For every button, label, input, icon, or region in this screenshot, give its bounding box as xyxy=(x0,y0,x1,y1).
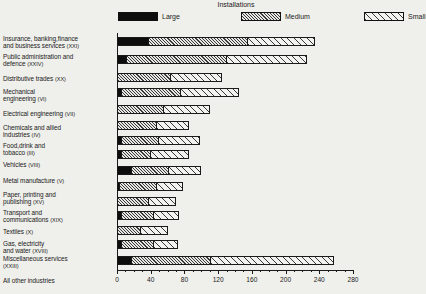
bar-segment-medium xyxy=(127,55,226,64)
bar-segment-large xyxy=(117,256,132,265)
chart-title: Installations xyxy=(118,1,354,8)
bar-segment-small xyxy=(154,211,179,220)
bar-segment-medium xyxy=(117,121,157,130)
x-tick-label: 280 xyxy=(343,276,363,283)
x-tick-minor xyxy=(243,270,244,272)
bar-segment-small xyxy=(211,256,334,265)
x-tick-minor xyxy=(201,270,202,272)
x-tick-minor xyxy=(294,270,295,272)
legend-label: Large xyxy=(162,13,180,20)
x-tick-label: 120 xyxy=(208,276,228,283)
x-tick-minor xyxy=(277,270,278,272)
category-label: Miscellaneous services(XXIII) xyxy=(3,255,115,271)
x-tick xyxy=(184,270,185,274)
bar-segment-small xyxy=(157,121,189,130)
legend-item-large: Large xyxy=(118,12,180,21)
x-tick-minor xyxy=(125,270,126,272)
x-tick xyxy=(151,270,152,274)
category-label: Metal manufacture (V) xyxy=(3,177,115,185)
bar-segment-medium xyxy=(117,105,164,114)
x-tick xyxy=(252,270,253,274)
bar-segment-medium xyxy=(122,88,181,97)
legend-item-medium: Medium xyxy=(241,12,310,21)
x-tick-minor xyxy=(269,270,270,272)
x-tick xyxy=(218,270,219,274)
x-tick-minor xyxy=(159,270,160,272)
category-label: Insurance, banking,financeand business s… xyxy=(3,35,115,51)
category-label: Transport andcommunications (XIX) xyxy=(3,209,115,225)
x-tick-minor xyxy=(345,270,346,272)
x-tick xyxy=(319,270,320,274)
x-tick-minor xyxy=(210,270,211,272)
bar-segment-small xyxy=(154,240,178,249)
bar-segment-small xyxy=(149,197,176,206)
x-tick-minor xyxy=(193,270,194,272)
category-label: Chemicals and alliedindustries (IV) xyxy=(3,124,115,140)
x-tick-minor xyxy=(328,270,329,272)
x-tick-label: 200 xyxy=(276,276,296,283)
x-tick-minor xyxy=(176,270,177,272)
category-label: Distributive trades (XX) xyxy=(3,75,115,83)
x-tick-label: 40 xyxy=(141,276,161,283)
bar-segment-medium xyxy=(122,150,151,159)
legend-label: Small xyxy=(408,13,426,20)
category-label: Vehicles (VIII) xyxy=(3,161,115,169)
legend-label: Medium xyxy=(285,13,310,20)
x-tick-label: 80 xyxy=(174,276,194,283)
x-tick-label: 0 xyxy=(107,276,127,283)
bar-segment-large xyxy=(117,55,127,64)
bar-segment-medium xyxy=(132,256,211,265)
bar-segment-medium xyxy=(117,197,149,206)
plot-area xyxy=(117,33,353,270)
bar-segment-small xyxy=(248,37,315,46)
bar-segment-medium xyxy=(122,240,154,249)
category-label: Textiles (X) xyxy=(3,228,115,236)
chart-legend: LargeMediumSmall xyxy=(118,12,407,24)
bar-segment-medium xyxy=(120,182,157,191)
x-tick xyxy=(353,270,354,274)
bar-segment-medium xyxy=(149,37,248,46)
category-label: Mechanicalengineering (VI) xyxy=(3,88,115,104)
bar-segment-small xyxy=(164,105,210,114)
legend-swatch-medium-icon xyxy=(241,12,281,21)
bar-segment-large xyxy=(117,166,132,175)
x-tick xyxy=(286,270,287,274)
bar-segment-small xyxy=(157,182,182,191)
x-tick-label: 240 xyxy=(309,276,329,283)
bar-segment-small xyxy=(141,226,168,235)
bar-segment-small xyxy=(169,166,201,175)
x-tick-minor xyxy=(142,270,143,272)
bar-segment-small xyxy=(181,88,239,97)
category-label: Gas, electricityand water (XVIII) xyxy=(3,240,115,256)
x-tick-label: 160 xyxy=(242,276,262,283)
x-tick-minor xyxy=(227,270,228,272)
x-tick-minor xyxy=(302,270,303,272)
x-tick-minor xyxy=(260,270,261,272)
bar-segment-small xyxy=(171,73,222,82)
category-label: All other industries xyxy=(3,277,115,284)
x-tick-minor xyxy=(311,270,312,272)
x-tick xyxy=(117,270,118,274)
x-tick-minor xyxy=(235,270,236,272)
legend-swatch-small-icon xyxy=(364,12,404,21)
bar-segment-medium xyxy=(117,73,171,82)
bar-segment-large xyxy=(117,37,149,46)
x-tick-minor xyxy=(134,270,135,272)
category-label: Paper, printing andpublishing (XV) xyxy=(3,191,115,207)
legend-item-small: Small xyxy=(364,12,426,21)
x-tick-minor xyxy=(168,270,169,272)
category-label: Public administration anddefence (XXIV) xyxy=(3,53,115,69)
bar-segment-small xyxy=(151,150,189,159)
legend-swatch-large-icon xyxy=(118,12,158,21)
bar-segment-small xyxy=(227,55,307,64)
bar-segment-medium xyxy=(117,226,141,235)
bar-segment-medium xyxy=(132,166,169,175)
category-label: Food,drink andtobacco (III) xyxy=(3,142,115,158)
x-tick-minor xyxy=(336,270,337,272)
bar-segment-small xyxy=(159,136,199,145)
bar-segment-medium xyxy=(122,211,154,220)
category-label: Electrical engineering (VII) xyxy=(3,110,115,118)
bar-segment-medium xyxy=(122,136,159,145)
